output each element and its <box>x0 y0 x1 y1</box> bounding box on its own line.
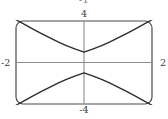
x-axis-max-label: 2 <box>160 58 166 68</box>
plot-svg <box>15 20 153 105</box>
plot-area <box>15 20 153 105</box>
x-axis-min-label: -2 <box>1 58 10 68</box>
clipped-top-annotation: -1 <box>0 0 168 5</box>
y-axis-max-label: 4 <box>0 9 168 19</box>
graph-figure: -1 4 -4 -2 2 <box>0 0 168 119</box>
y-axis-min-label: -4 <box>0 105 168 115</box>
